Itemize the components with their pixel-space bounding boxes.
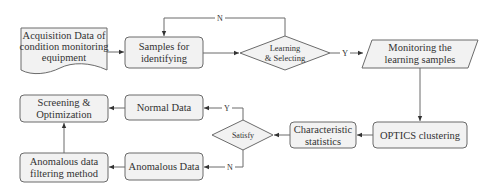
- node-label: filtering method: [30, 168, 99, 179]
- node-samples-for-identifying: Samples for identifying: [125, 37, 203, 68]
- edge-label-learning-no: N: [217, 14, 223, 23]
- node-label: identifying: [141, 53, 188, 64]
- node-label: Characteristic: [294, 124, 353, 135]
- node-characteristic-statistics: Characteristic statistics: [290, 122, 356, 148]
- node-monitoring-learning-samples: Monitoring the learning samples: [362, 40, 478, 68]
- node-learning-selecting-decision: Learning & Selecting: [240, 36, 330, 70]
- flowchart-canvas: Acquisition Data of condition monitoring…: [0, 0, 497, 193]
- edge-satisfy-no-to-anomalous: [204, 150, 243, 167]
- node-label: learning samples: [385, 54, 456, 65]
- edge-label-learning-yes: Y: [342, 48, 348, 58]
- node-label: Satisfy: [232, 131, 254, 140]
- node-normal-data: Normal Data: [125, 95, 203, 120]
- node-anomalous-filtering-method: Anomalous data filtering method: [20, 153, 108, 182]
- edge-label-satisfy-no: N: [227, 163, 233, 172]
- node-anomalous-data: Anomalous Data: [125, 153, 203, 180]
- node-label: equipment: [42, 52, 86, 63]
- node-label: Optimization: [36, 109, 92, 120]
- node-label: condition monitoring: [20, 41, 110, 52]
- node-label: Anomalous Data: [129, 161, 200, 172]
- node-label: Screening &: [38, 97, 91, 108]
- node-screening-optimization: Screening & Optimization: [20, 95, 108, 122]
- node-label: statistics: [305, 136, 341, 147]
- node-optics-clustering: OPTICS clustering: [373, 122, 467, 148]
- node-label: OPTICS clustering: [380, 130, 461, 141]
- node-satisfy-decision: Satisfy: [212, 120, 273, 150]
- node-label: Learning: [270, 43, 301, 53]
- node-label: & Selecting: [265, 53, 306, 63]
- node-label: Samples for: [139, 41, 190, 52]
- node-label: Monitoring the: [388, 42, 452, 53]
- node-label: Acquisition Data of: [23, 30, 106, 41]
- node-label: Normal Data: [137, 102, 192, 113]
- edge-label-satisfy-yes: Y: [224, 104, 230, 113]
- node-label: Anomalous data: [30, 156, 99, 167]
- node-acquisition-data: Acquisition Data of condition monitoring…: [20, 28, 110, 74]
